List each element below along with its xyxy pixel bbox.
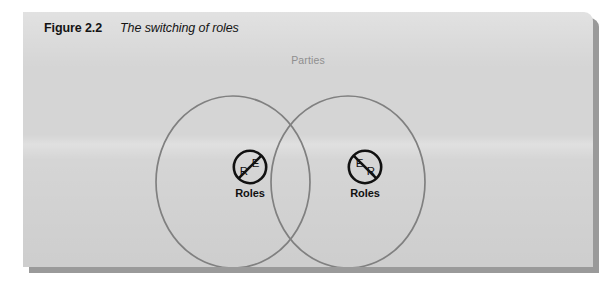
figure-root: Figure 2.2The switching of roles Parties… (0, 0, 614, 288)
role-badge-left-letter-e: E (252, 157, 260, 169)
role-label-left: Roles (210, 187, 290, 199)
role-badge-left-letter-r: R (240, 165, 248, 177)
venn-diagram (23, 12, 593, 267)
role-badge-right-letter-e: E (356, 157, 364, 169)
role-label-right: Roles (325, 187, 405, 199)
role-badge-right-letter-r: R (367, 165, 375, 177)
role-badge-right: E R (346, 148, 384, 186)
role-badge-left: E R (231, 148, 269, 186)
figure-panel: Figure 2.2The switching of roles Parties… (23, 12, 593, 267)
